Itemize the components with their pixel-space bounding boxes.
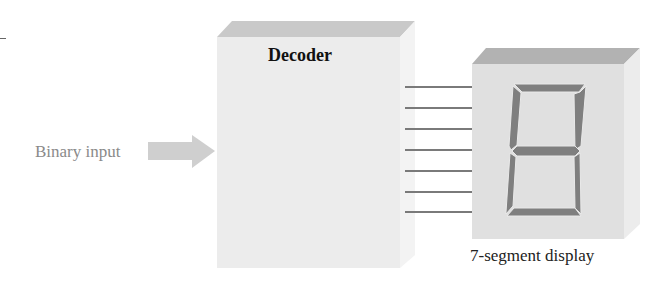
display-top-face — [472, 48, 640, 64]
segment-c — [574, 153, 581, 214]
output-lines — [405, 87, 472, 212]
segment-a — [514, 84, 585, 92]
decoder-side-face — [400, 21, 415, 268]
decoder-top-face — [217, 21, 415, 37]
seven-segment-display — [472, 48, 640, 239]
arrow-icon — [148, 135, 215, 168]
binary-input-label: Binary input — [35, 143, 120, 160]
display-caption: 7-segment display — [470, 247, 594, 264]
display-side-face — [624, 48, 640, 239]
binary-input-arrow — [148, 135, 215, 168]
decoder-title: Decoder — [268, 46, 332, 64]
decoder-front-face — [217, 37, 400, 268]
segment-g — [512, 146, 580, 156]
decoder-diagram: Decoder Binary input 7-segment display — [0, 0, 671, 283]
segment-d — [507, 208, 581, 216]
